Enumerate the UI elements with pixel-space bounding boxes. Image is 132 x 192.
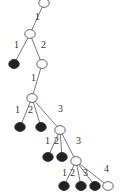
- edge-label: 1: [45, 135, 50, 146]
- filled-leaf-node: [36, 123, 46, 132]
- open-node: [103, 182, 113, 191]
- open-node: [39, 0, 49, 7]
- filled-leaf-node: [57, 153, 67, 162]
- open-node: [71, 157, 81, 166]
- edge-label: 2: [54, 135, 59, 146]
- filled-leaf-node: [90, 182, 100, 191]
- edge-label: 2: [70, 167, 75, 178]
- open-node: [55, 126, 65, 135]
- edge-label: 2: [41, 39, 46, 50]
- edge-label: 1: [62, 167, 67, 178]
- edge-label: 1: [35, 11, 40, 22]
- edge-label: 3: [76, 135, 81, 146]
- filled-leaf-node: [59, 182, 69, 191]
- open-node: [37, 60, 47, 69]
- tree-nodes: [9, 0, 113, 190]
- edge-label: 1: [15, 104, 20, 115]
- tree-diagram: 11211231231234: [0, 0, 132, 192]
- open-node: [27, 94, 37, 103]
- edge-label: 1: [31, 72, 36, 83]
- edge-label: 2: [28, 104, 33, 115]
- filled-leaf-node: [9, 60, 19, 69]
- filled-leaf-node: [76, 182, 86, 191]
- edge-label: 3: [58, 103, 63, 114]
- edge-label: 3: [83, 167, 88, 178]
- filled-leaf-node: [43, 153, 53, 162]
- filled-leaf-node: [15, 123, 25, 132]
- edge-label: 4: [104, 163, 109, 174]
- open-node: [25, 30, 35, 39]
- edge-label: 1: [14, 39, 19, 50]
